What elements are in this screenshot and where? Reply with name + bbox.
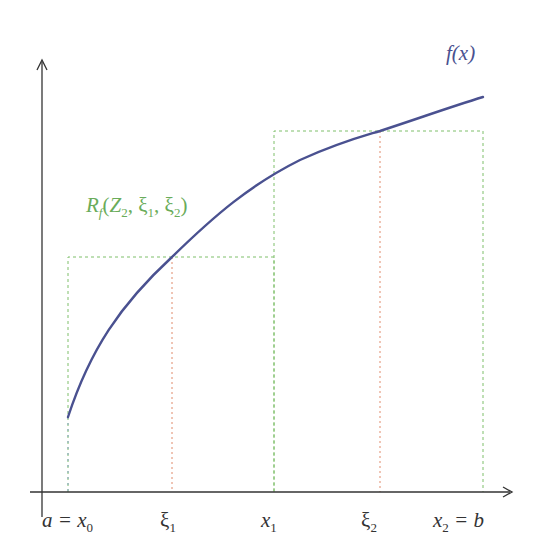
curve-label: f(x) — [446, 41, 475, 65]
sample-lines — [172, 131, 380, 492]
axes — [30, 60, 512, 517]
tick-label-x0: a = x0 — [42, 508, 93, 535]
tick-label-x2: x2 = b — [432, 508, 484, 535]
x-tick-labels: a = x0 ξ1 x1 ξ2 x2 = b — [42, 508, 484, 535]
riemann-rectangles — [68, 131, 483, 492]
riemann-sum-diagram: f(x) Rf(Z2, ξ1, ξ2) a = x0 ξ1 x1 ξ2 x2 =… — [0, 0, 539, 550]
tick-label-xi1: ξ1 — [160, 508, 176, 535]
function-curve — [68, 97, 483, 417]
tick-label-xi2: ξ2 — [361, 508, 377, 535]
rectangle-2 — [274, 131, 483, 492]
riemann-sum-label: Rf(Z2, ξ1, ξ2) — [85, 193, 187, 220]
tick-label-x1: x1 — [260, 508, 277, 535]
rectangle-1 — [68, 257, 274, 492]
